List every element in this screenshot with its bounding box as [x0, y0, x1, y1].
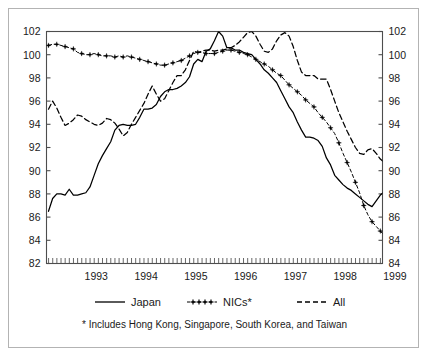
- y-tick-label-right: 96: [389, 95, 401, 107]
- y-tick-label-left: 90: [29, 165, 41, 177]
- y-tick-label-left: 88: [29, 188, 41, 200]
- series-marker: [54, 42, 59, 47]
- axis-ticks: [47, 32, 383, 264]
- series-marker: [79, 51, 84, 56]
- series-marker: [353, 180, 358, 185]
- series-marker: [87, 52, 92, 57]
- series-marker: [262, 61, 267, 66]
- y-tick-label-left: 92: [29, 141, 41, 153]
- series-marker: [196, 299, 202, 305]
- series-marker: [62, 44, 67, 49]
- y-tick-label-right: 88: [389, 188, 401, 200]
- plot-area-border: [47, 32, 383, 264]
- x-axis-labels: 1993199419951996199719981999: [85, 270, 407, 282]
- series-marker: [96, 52, 101, 57]
- y-tick-label-left: 96: [29, 95, 41, 107]
- x-tick-label: 1996: [234, 270, 258, 282]
- line-chart: 828486889092949698100102 848486889092949…: [0, 0, 429, 357]
- series-marker: [208, 299, 214, 305]
- x-tick-label: 1997: [284, 270, 308, 282]
- chart-legend: JapanNICs*All: [95, 296, 345, 308]
- series-marker: [137, 57, 142, 62]
- series-marker: [202, 299, 208, 305]
- plot-frame: [47, 32, 383, 264]
- y-tick-label-right: 98: [389, 72, 401, 84]
- series-marker: [104, 53, 109, 58]
- y-tick-label-right: 100: [389, 49, 407, 61]
- x-tick-label: 1995: [184, 270, 208, 282]
- chart-footnote: * Includes Hong Kong, Singapore, South K…: [82, 319, 347, 330]
- series-marker: [179, 58, 184, 63]
- y-tick-label-left: 102: [23, 25, 41, 37]
- legend-label-japan: Japan: [131, 296, 161, 308]
- y-tick-label-right: 102: [389, 25, 407, 37]
- y-tick-label-left: 94: [29, 118, 41, 130]
- footnote-label: * Includes Hong Kong, Singapore, South K…: [82, 319, 347, 330]
- y-tick-label-left: 84: [29, 234, 41, 246]
- series-marker: [170, 60, 175, 65]
- series-marker: [129, 54, 134, 59]
- series-marker: [112, 54, 117, 59]
- x-tick-label: 1998: [333, 270, 357, 282]
- legend-label-nics: NICs*: [223, 296, 252, 308]
- y-tick-label-right: 94: [389, 118, 401, 130]
- legend-label-all: All: [333, 296, 345, 308]
- y-tick-label-left: 86: [29, 211, 41, 223]
- chart-figure: 828486889092949698100102 848486889092949…: [0, 0, 429, 357]
- y-axis-labels-right: 848486889092949698100102: [389, 25, 407, 269]
- series-marker: [361, 203, 366, 208]
- series-marker: [190, 299, 196, 305]
- series-marker: [71, 46, 76, 51]
- y-tick-label-left: 98: [29, 72, 41, 84]
- y-tick-label-right: 86: [389, 211, 401, 223]
- series-marker: [345, 160, 350, 165]
- y-tick-label-left: 100: [23, 49, 41, 61]
- y-tick-label-right: 84: [389, 257, 401, 269]
- series-marker: [336, 140, 341, 145]
- y-tick-label-right: 92: [389, 141, 401, 153]
- series-line-nics: [48, 44, 392, 250]
- series-marker: [154, 61, 159, 66]
- y-tick-label-left: 82: [29, 257, 41, 269]
- x-tick-label: 1993: [85, 270, 109, 282]
- y-tick-label-right: 90: [389, 165, 401, 177]
- x-tick-label: 1999: [383, 270, 407, 282]
- data-series: [46, 32, 393, 251]
- y-axis-labels-left: 828486889092949698100102: [23, 25, 41, 269]
- y-tick-label-right: 84: [389, 234, 401, 246]
- series-marker: [162, 63, 167, 68]
- series-line-japan: [48, 32, 392, 212]
- series-marker: [121, 54, 126, 59]
- series-marker: [145, 59, 150, 64]
- x-tick-label: 1994: [134, 270, 158, 282]
